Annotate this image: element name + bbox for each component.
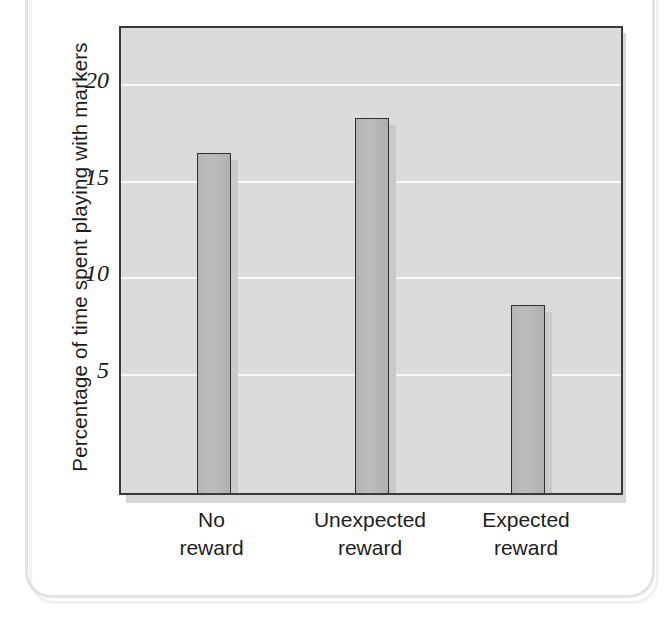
x-category-label: Unexpected reward [280, 506, 460, 562]
plot-area [119, 26, 623, 495]
bar-chart: Percentage of time spent playing with ma… [0, 0, 672, 617]
y-tick-label: 10 [49, 260, 109, 287]
x-category-label: No reward [122, 506, 302, 562]
bar [197, 153, 231, 495]
y-tick-label: 15 [49, 164, 109, 191]
grid-line [121, 84, 621, 86]
y-axis-tick-labels: 5101520 [45, 0, 109, 520]
x-category-label: Expected reward [436, 506, 616, 562]
y-tick-label: 5 [49, 357, 109, 384]
bar [511, 305, 545, 495]
y-tick-label: 20 [49, 67, 109, 94]
bar [355, 118, 389, 495]
